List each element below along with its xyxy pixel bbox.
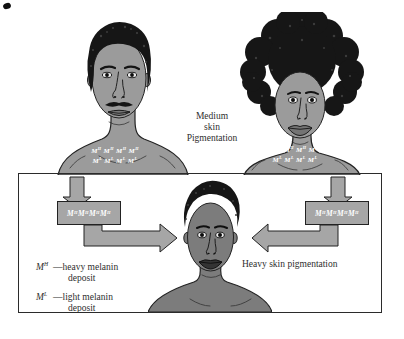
- legend-description-heavy: —heavy melanin deposit: [53, 262, 118, 284]
- child-figure: [148, 175, 272, 312]
- legend-item-light: ML —light melanin deposit: [36, 292, 166, 314]
- heavy-skin-caption: Heavy skin pigmentation: [242, 259, 392, 269]
- diagram-stage: Medium skin Pigmentation MH MH MH MH ML …: [0, 0, 404, 339]
- gamete-box-left: MH MH MH MH: [57, 201, 121, 225]
- child-skin: [148, 203, 272, 312]
- gamete-box-right: MH MH MH MH: [305, 201, 369, 225]
- legend-symbol-light: ML: [36, 292, 53, 314]
- legend-item-heavy: MH —heavy melanin deposit: [36, 262, 166, 284]
- legend-symbol-heavy: MH: [36, 262, 53, 284]
- legend-description-light: —light melanin deposit: [53, 292, 113, 314]
- legend: MH —heavy melanin deposit ML —light mela…: [36, 262, 166, 322]
